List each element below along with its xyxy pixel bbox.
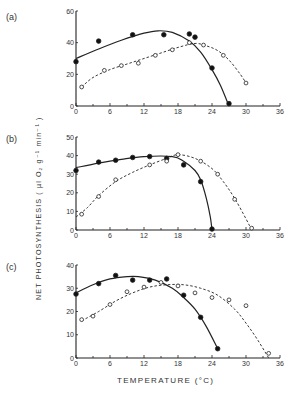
x-tick-label: 24 [208, 360, 216, 367]
filled-marker [210, 227, 215, 232]
open-marker [221, 53, 225, 57]
x-tick-label: 36 [276, 108, 284, 115]
panel-label: (a) [6, 12, 17, 22]
x-axis-label: TEMPERATURE (°C) [117, 376, 214, 385]
panel-c: (c)061218243036010203040 [6, 262, 284, 368]
x-tick-label: 6 [108, 232, 112, 239]
y-tick-label: 0 [70, 355, 74, 362]
y-tick-label: 30 [66, 285, 74, 292]
x-tick-label: 24 [208, 108, 216, 115]
filled-marker [210, 66, 215, 71]
open-marker [114, 178, 118, 182]
filled-marker [113, 158, 118, 163]
open-marker [119, 64, 123, 68]
open-marker [91, 314, 95, 318]
open-marker [102, 68, 106, 72]
filled-marker [96, 39, 101, 44]
open-marker [202, 43, 206, 47]
solid-curve [76, 156, 212, 230]
open-marker [176, 153, 180, 157]
filled-marker [130, 278, 135, 283]
filled-marker [181, 293, 186, 298]
y-tick-label: 40 [66, 152, 74, 159]
x-tick-label: 36 [276, 360, 284, 367]
open-marker [250, 226, 254, 230]
x-tick-label: 12 [140, 232, 148, 239]
filled-marker [96, 160, 101, 165]
open-marker [97, 195, 101, 199]
open-marker [125, 290, 129, 294]
x-tick-label: 0 [74, 108, 78, 115]
filled-marker [181, 163, 186, 168]
y-axis-label: NET PHOTOSYNTHESIS ( µl O₂ g⁻¹ min⁻¹ ) [34, 117, 43, 300]
x-tick-label: 24 [208, 232, 216, 239]
filled-marker [130, 32, 135, 37]
x-tick-label: 6 [108, 360, 112, 367]
x-tick-label: 18 [174, 360, 182, 367]
y-tick-label: 0 [70, 227, 74, 234]
x-tick-label: 36 [276, 232, 284, 239]
open-marker [233, 197, 237, 201]
filled-marker [74, 168, 79, 173]
x-tick-label: 18 [174, 232, 182, 239]
panel-label: (b) [6, 134, 17, 144]
x-tick-label: 12 [140, 108, 148, 115]
x-tick-label: 30 [242, 360, 250, 367]
dashed-curve [82, 284, 269, 358]
open-marker [165, 159, 169, 163]
x-tick-label: 0 [74, 232, 78, 239]
open-marker [227, 298, 231, 302]
open-marker [244, 81, 248, 85]
x-tick-label: 18 [174, 108, 182, 115]
y-tick-label: 20 [66, 189, 74, 196]
open-marker [210, 296, 214, 300]
y-tick-label: 30 [66, 171, 74, 178]
open-marker [153, 53, 157, 57]
filled-marker [147, 154, 152, 159]
filled-marker [74, 59, 79, 64]
y-tick-label: 10 [66, 331, 74, 338]
open-marker [267, 351, 271, 355]
open-marker [187, 41, 191, 45]
open-marker [80, 85, 84, 89]
open-marker [108, 303, 112, 307]
open-marker [159, 281, 163, 285]
y-tick-label: 40 [66, 39, 74, 46]
filled-marker [162, 32, 167, 37]
dashed-curve [76, 155, 252, 230]
filled-marker [198, 315, 203, 320]
y-tick-label: 60 [66, 8, 74, 15]
filled-marker [187, 32, 192, 37]
open-marker [80, 212, 84, 216]
filled-marker [96, 281, 101, 286]
open-marker [193, 291, 197, 295]
filled-marker [198, 179, 203, 184]
open-marker [142, 285, 146, 289]
y-tick-label: 0 [70, 103, 74, 110]
filled-marker [74, 292, 79, 297]
open-marker [148, 163, 152, 167]
filled-marker [164, 277, 169, 282]
open-marker [170, 48, 174, 52]
dashed-curve [82, 43, 246, 87]
filled-marker [130, 155, 135, 160]
figure: NET PHOTOSYNTHESIS ( µl O₂ g⁻¹ min⁻¹ ) T… [0, 0, 289, 395]
open-marker [176, 284, 180, 288]
panel-b: (b)06121824303601020304050 [6, 134, 284, 240]
y-tick-label: 50 [66, 134, 74, 141]
x-tick-label: 12 [140, 360, 148, 367]
x-tick-label: 30 [242, 232, 250, 239]
panel-label: (c) [6, 262, 17, 272]
x-tick-label: 0 [74, 360, 78, 367]
filled-marker [227, 101, 232, 106]
open-marker [199, 159, 203, 163]
filled-marker [215, 346, 220, 351]
y-tick-label: 20 [66, 71, 74, 78]
y-tick-label: 10 [66, 208, 74, 215]
open-marker [216, 172, 220, 176]
x-tick-label: 6 [108, 108, 112, 115]
y-tick-label: 40 [66, 262, 74, 269]
y-tick-label: 20 [66, 308, 74, 315]
open-marker [244, 304, 248, 308]
filled-marker [113, 273, 118, 278]
